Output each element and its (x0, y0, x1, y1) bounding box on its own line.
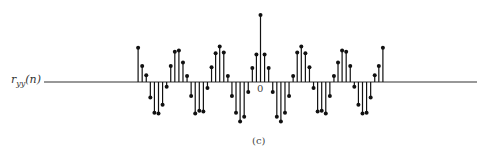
stem-marker (295, 51, 299, 55)
stem-marker (214, 51, 218, 55)
stem-marker (193, 111, 197, 115)
stem-marker (165, 85, 169, 89)
stem-marker (189, 94, 193, 98)
stem-marker (169, 64, 173, 68)
stem-marker (312, 86, 316, 90)
stem-marker (340, 49, 344, 53)
stem-marker (365, 111, 369, 115)
stem-marker (246, 90, 250, 94)
stem-marker (157, 111, 161, 115)
stem-marker (201, 109, 205, 113)
stem-marker (377, 64, 381, 68)
stem-marker (210, 65, 214, 69)
stem-marker (332, 74, 336, 78)
stem-series (136, 13, 385, 124)
stem-marker (275, 115, 279, 119)
stem-marker (291, 74, 295, 78)
stem-marker (140, 64, 144, 68)
stem-marker (263, 53, 267, 57)
figure-caption: (c) (252, 135, 265, 146)
y-axis-label: ryy(n) (11, 73, 41, 88)
stem-marker (267, 66, 271, 70)
stem-marker (197, 109, 201, 113)
x-tick-label-zero: 0 (257, 83, 263, 94)
stem-marker (234, 111, 238, 115)
stem-marker (307, 65, 311, 69)
stem-marker (205, 86, 209, 90)
stem-marker (173, 50, 177, 54)
stem-marker (369, 95, 373, 99)
stem-marker (287, 94, 291, 98)
stem-marker (230, 94, 234, 98)
stem-marker (226, 74, 230, 78)
stem-marker (222, 51, 226, 55)
stem-marker (320, 109, 324, 113)
stem-marker (254, 53, 258, 57)
stem-marker (250, 66, 254, 70)
stem-marker (218, 44, 222, 48)
stem-marker (152, 111, 156, 115)
stem-marker (181, 61, 185, 65)
stem-marker (148, 95, 152, 99)
stem-marker (177, 49, 181, 53)
stem-marker (324, 111, 328, 115)
stem-marker (185, 74, 189, 78)
stem-marker (161, 103, 165, 107)
stem-marker (344, 50, 348, 54)
stem-marker (373, 73, 377, 77)
stem-marker (299, 44, 303, 48)
stem-marker (279, 120, 283, 124)
stem-marker (381, 46, 385, 50)
stem-plot (0, 0, 483, 151)
stem-marker (316, 109, 320, 113)
stem-marker (144, 73, 148, 77)
stem-marker (283, 111, 287, 115)
stem-marker (271, 90, 275, 94)
stem-marker (356, 103, 360, 107)
stem-marker (242, 115, 246, 119)
stem-marker (361, 111, 365, 115)
stem-marker (328, 94, 332, 98)
stem-marker (238, 120, 242, 124)
stem-marker (303, 51, 307, 55)
stem-marker (136, 46, 140, 50)
stem-marker (336, 61, 340, 65)
stem-marker (348, 64, 352, 68)
stem-marker (259, 13, 263, 17)
stem-marker (352, 85, 356, 89)
